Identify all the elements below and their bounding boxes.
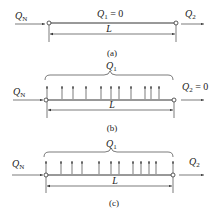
uniform-outflow-arrows: [47, 86, 159, 99]
start-node: [47, 21, 51, 25]
brace: [45, 71, 173, 80]
start-node: [44, 173, 48, 177]
panel-b: Q1 QN Q2 = 0 L (b): [13, 60, 208, 133]
pipe-flow-diagram: QN Q1 = 0 Q2 L (a) Q1 QN: [0, 0, 216, 219]
end-node: [171, 173, 175, 177]
outflow-label: Q2: [189, 156, 200, 169]
length-label: L: [108, 99, 115, 110]
panel-a: QN Q1 = 0 Q2 L (a): [15, 8, 204, 58]
length-label: L: [105, 23, 112, 34]
panel-c: Q1 QN Q2 L (c): [12, 138, 204, 208]
inflow-label: QN: [12, 158, 24, 171]
end-node: [174, 21, 178, 25]
uniform-outflow-arrows: [46, 161, 173, 174]
start-node: [44, 98, 48, 102]
end-node: [172, 98, 176, 102]
distributed-flow-label: Q1: [106, 60, 117, 73]
inflow-label: QN: [15, 10, 27, 23]
brace: [44, 148, 173, 157]
outflow-label: Q2: [185, 8, 196, 21]
outflow-label: Q2 = 0: [182, 81, 208, 94]
distributed-flow-label: Q1 = 0: [97, 8, 123, 21]
length-label: L: [111, 175, 118, 186]
caption-b: (b): [107, 123, 118, 133]
caption-a: (a): [107, 48, 117, 58]
inflow-label: QN: [13, 86, 25, 99]
caption-c: (c): [109, 198, 119, 208]
